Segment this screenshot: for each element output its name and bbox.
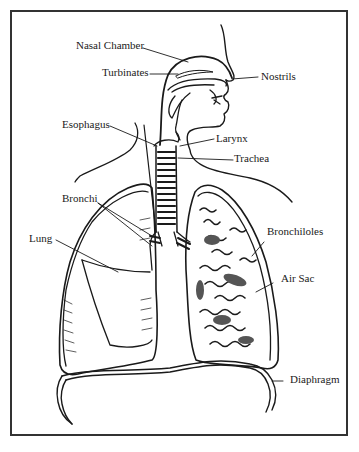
label-bronchioles: Bronchiloles <box>267 226 323 237</box>
label-larynx: Larynx <box>216 133 248 144</box>
label-lung: Lung <box>29 233 52 244</box>
label-diaphragm: Diaphragm <box>290 374 339 385</box>
label-nasal-chamber: Nasal Chamber <box>76 40 144 51</box>
label-air-sac: Air Sac <box>281 273 314 284</box>
label-turbinates: Turbinates <box>102 67 149 78</box>
left-lung <box>59 184 157 375</box>
label-trachea: Trachea <box>234 153 269 164</box>
trachea <box>144 125 190 270</box>
head-profile <box>75 25 292 202</box>
label-esophagus: Esophagus <box>62 119 110 130</box>
diaphragm <box>57 361 276 424</box>
label-bronchi: Bronchi <box>62 193 97 204</box>
label-nostrils: Nostrils <box>261 71 296 82</box>
right-lung <box>186 185 279 368</box>
leader-lines <box>56 48 283 381</box>
